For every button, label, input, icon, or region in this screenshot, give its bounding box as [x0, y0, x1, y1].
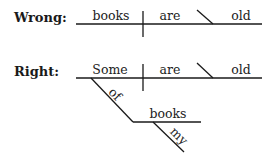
wrong-diagram: Wrong: books are old — [13, 8, 262, 37]
wrong-label: Wrong: — [13, 10, 67, 25]
object-word: books — [149, 106, 186, 121]
right-verb-word: are — [160, 62, 181, 77]
right-complement-slant — [197, 63, 213, 78]
sentence-diagrams: Wrong: books are old Right: Some are old… — [0, 0, 276, 162]
wrong-complement-slant — [197, 10, 213, 24]
right-label: Right: — [14, 64, 59, 79]
modifier-word: my — [167, 124, 192, 149]
right-diagram: Right: Some are old of books my — [14, 62, 262, 152]
wrong-complement-word: old — [231, 8, 251, 23]
wrong-verb-word: are — [160, 8, 181, 23]
right-subject-word: Some — [92, 62, 127, 77]
right-complement-word: old — [231, 62, 251, 77]
wrong-subject-word: books — [92, 8, 129, 23]
preposition-word: of — [106, 84, 126, 104]
